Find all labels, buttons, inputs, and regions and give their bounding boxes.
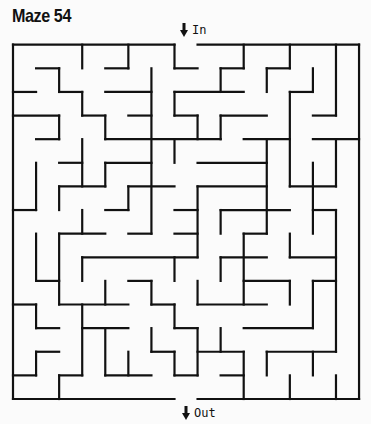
down-arrow-icon — [182, 406, 190, 420]
exit-text: Out — [194, 406, 216, 420]
exit-label: Out — [182, 406, 216, 420]
maze-grid — [0, 0, 371, 424]
